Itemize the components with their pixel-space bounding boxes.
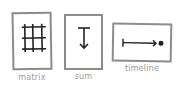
matrix-label: matrix — [12, 73, 52, 82]
grid-icon — [14, 14, 55, 73]
timeline-label: timeline — [112, 64, 172, 73]
sum-card[interactable] — [64, 14, 103, 70]
sum-label: sum — [64, 72, 103, 81]
sum-arrow-icon — [66, 16, 105, 72]
timeline-card[interactable] — [112, 22, 173, 62]
matrix-card[interactable] — [11, 12, 52, 71]
timeline-icon — [114, 25, 175, 65]
